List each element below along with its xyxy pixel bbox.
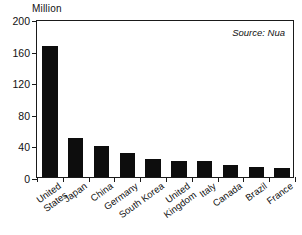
bar (249, 167, 264, 177)
bar (197, 161, 212, 177)
bar (171, 161, 186, 177)
y-tick-label: 200 (12, 15, 30, 27)
bar (42, 46, 57, 177)
bar (68, 138, 83, 177)
bar (94, 146, 109, 177)
x-axis-labels: United StatesJapanChinaGermanySouth Kore… (36, 181, 294, 235)
y-tick-label: 80 (18, 110, 30, 122)
y-tick-label: 0 (24, 173, 30, 185)
x-tick-mark (295, 177, 296, 182)
bar (274, 168, 289, 177)
bar (223, 165, 238, 177)
plot-area: Source: Nua 04080120160200 (36, 20, 294, 178)
chart-page: Million Source: Nua 04080120160200 Unite… (0, 0, 302, 235)
y-tick-label: 160 (12, 47, 30, 59)
bar (120, 153, 135, 177)
y-axis-unit-label: Million (32, 3, 62, 14)
y-tick-label: 40 (18, 141, 30, 153)
y-tick-label: 120 (12, 78, 30, 90)
bars-group (37, 21, 293, 177)
bar (145, 159, 160, 177)
